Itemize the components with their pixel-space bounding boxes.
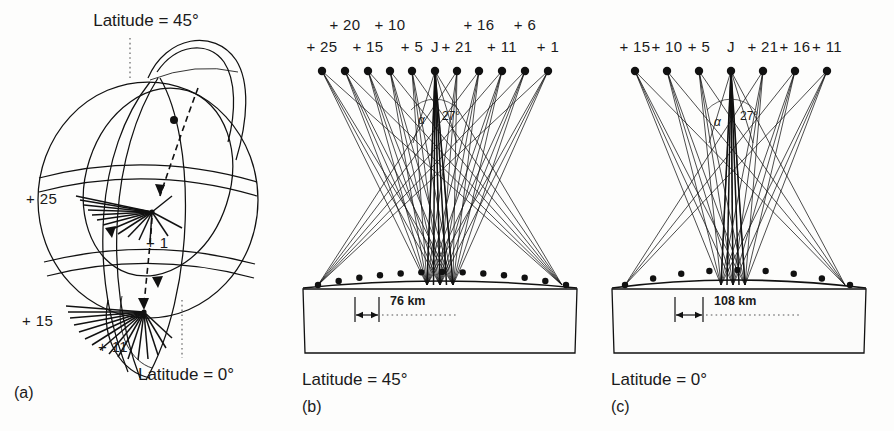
track-arrow-3 (152, 276, 163, 288)
satellite-label: + 1 (537, 38, 559, 55)
satellite-label: + 11 (812, 38, 842, 55)
figure-root: Latitude = 45° Latitude = 0° + 25 + 1 + … (0, 0, 894, 431)
satellite-label: + 16 (779, 38, 810, 55)
globe-outline (38, 82, 258, 318)
satellite-label: + 21 (441, 38, 472, 55)
panel-b-letter: (b) (302, 398, 322, 415)
panel-c-latitude-0: α 27° 108 km Latitude = 0° (c) + 15+ 10+… (598, 0, 894, 431)
panel-b-scale-label: 76 km (390, 294, 425, 308)
satellite-label: + 6 (514, 16, 536, 33)
satellite-label: + 15 (352, 38, 383, 55)
polar-loop-outer (148, 40, 246, 160)
panel-a-label-upper-right: + 1 (146, 234, 168, 251)
panel-c-satellite-labels: + 15+ 10+ 5J+ 21+ 16+ 11 (619, 38, 842, 55)
panel-b-latitude-45: α 27° 76 km Latitude = 45° (b) + 25+ 20+… (286, 0, 598, 431)
satellite-label: + 21 (747, 38, 778, 55)
panel-a-letter: (a) (14, 384, 34, 401)
panel-c-satellites (631, 67, 831, 75)
panel-b-satellite-labels: + 25+ 20+ 15+ 10+ 5J+ 21+ 16+ 11+ 6+ 1 (306, 16, 559, 55)
panel-c-caption: Latitude = 0° (611, 370, 707, 389)
satellite-marker-dot (170, 116, 178, 124)
satellite-label: + 15 (619, 38, 650, 55)
panel-a-globe: Latitude = 45° Latitude = 0° + 25 + 1 + … (0, 0, 290, 431)
polar-loop-chord (150, 68, 238, 80)
panel-a-label-upper-left: + 25 (26, 190, 57, 207)
track-arrow-2 (138, 298, 149, 310)
satellite-label: + 11 (487, 38, 517, 55)
satellite-label: + 5 (401, 38, 423, 55)
panel-b-caption: Latitude = 45° (302, 370, 408, 389)
satellite-label: + 25 (306, 38, 337, 55)
panel-c-alpha-label: α (714, 115, 722, 129)
satellite-label: + 16 (463, 16, 494, 33)
panel-c-scale-label: 108 km (714, 294, 756, 308)
globe-band-upper-back (39, 179, 257, 196)
panel-b-satellites (318, 67, 552, 75)
panel-b-angle-value: 27° (442, 109, 460, 123)
track-arrow-1 (155, 184, 165, 196)
panel-a-bottom-label: Latitude = 0° (138, 365, 234, 384)
panel-c-letter: (c) (611, 398, 630, 415)
panel-a-label-lower-left: + 15 (22, 312, 53, 329)
satellite-label: J (431, 38, 439, 55)
panel-c-ground-markers (622, 267, 853, 288)
satellite-label: + 10 (374, 16, 405, 33)
panel-b-alpha-label: α (418, 113, 426, 127)
panel-a-top-label: Latitude = 45° (93, 11, 199, 30)
panel-c-angle-value: 27° (740, 109, 758, 123)
satellite-label: + 5 (688, 38, 710, 55)
panel-b-earth-slab (303, 289, 577, 353)
orbit-meridian-left (103, 82, 150, 372)
satellite-label: + 10 (651, 38, 682, 55)
panel-a-label-lower-right: + 11 (98, 338, 128, 355)
satellite-label: J (727, 38, 735, 55)
satellite-label: + 20 (329, 16, 360, 33)
